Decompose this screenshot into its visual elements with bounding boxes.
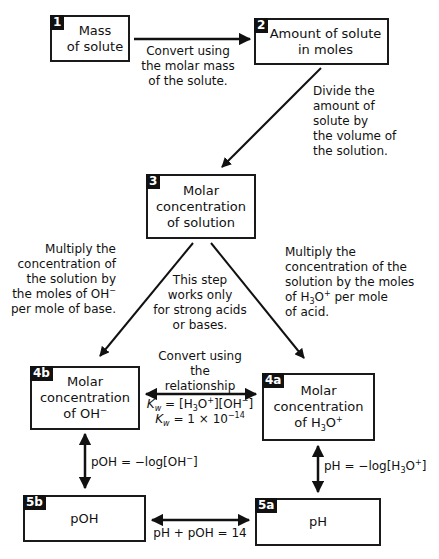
node-2-amount-in-moles: 2 Amount of solute in moles — [254, 18, 389, 65]
node-5b-poh: 5b pOH — [23, 495, 146, 542]
node-3-label-line1: Molar — [156, 183, 246, 199]
edge-label-2-to-3: Divide the amount of solute by the volum… — [313, 84, 433, 159]
node-4b-oh-concentration: 4b Molar concentration of OH− — [30, 366, 140, 430]
badge-1: 1 — [50, 15, 64, 30]
edge-label-1-to-2: Convert using the molar mass of the solu… — [138, 44, 238, 89]
edge-label-3-to-4b: Multiply the concentration of the soluti… — [4, 242, 116, 317]
kw-equation-2: Kw = 1 × 10−14 — [140, 412, 260, 427]
kw-equation-1: Kw = [H3O+][OH−] — [140, 397, 260, 412]
edge-label-4a-4b-kw: Convert using the relationship Kw = [H3O… — [140, 349, 260, 427]
node-5a-ph: 5a pH — [255, 498, 381, 546]
node-4a-label-line3: of H3O+ — [273, 415, 363, 431]
badge-2: 2 — [254, 18, 268, 33]
edge-label-4a-5a-ph: pH = −log[H3O+] — [324, 459, 439, 474]
badge-3: 3 — [146, 174, 160, 189]
node-5a-label: pH — [309, 514, 327, 530]
node-3-molar-concentration: 3 Molar concentration of solution — [146, 174, 256, 239]
node-1-label-line1: Mass — [67, 23, 123, 39]
node-3-label-line2: concentration — [156, 199, 246, 215]
node-4a-label-line2: concentration — [273, 399, 363, 415]
edge-label-3-to-4a: Multiply the concentration of the soluti… — [285, 245, 435, 320]
node-2-label-line1: Amount of solute — [270, 26, 382, 42]
edge-label-5b-5a-sum: pH + pOH = 14 — [148, 526, 252, 541]
badge-4a: 4a — [262, 373, 284, 388]
note-strong-acids-only: This step works only for strong acids or… — [150, 273, 250, 333]
node-2-label-line2: in moles — [270, 42, 382, 58]
node-1-mass-of-solute: 1 Mass of solute — [50, 15, 130, 62]
node-4b-label-line3: of OH− — [40, 406, 130, 422]
badge-5a: 5a — [255, 498, 277, 513]
node-4b-label-line2: concentration — [40, 390, 130, 406]
node-5b-label: pOH — [70, 511, 98, 527]
node-4a-label-line1: Molar — [273, 383, 363, 399]
node-3-label-line3: of solution — [156, 215, 246, 231]
node-4b-label-line1: Molar — [40, 374, 130, 390]
badge-5b: 5b — [23, 495, 46, 510]
badge-4b: 4b — [30, 366, 53, 381]
node-1-label-line2: of solute — [67, 39, 123, 55]
edge-label-4b-5b-poh: pOH = −log[OH−] — [91, 455, 211, 470]
node-4a-h3o-concentration: 4a Molar concentration of H3O+ — [262, 373, 375, 441]
